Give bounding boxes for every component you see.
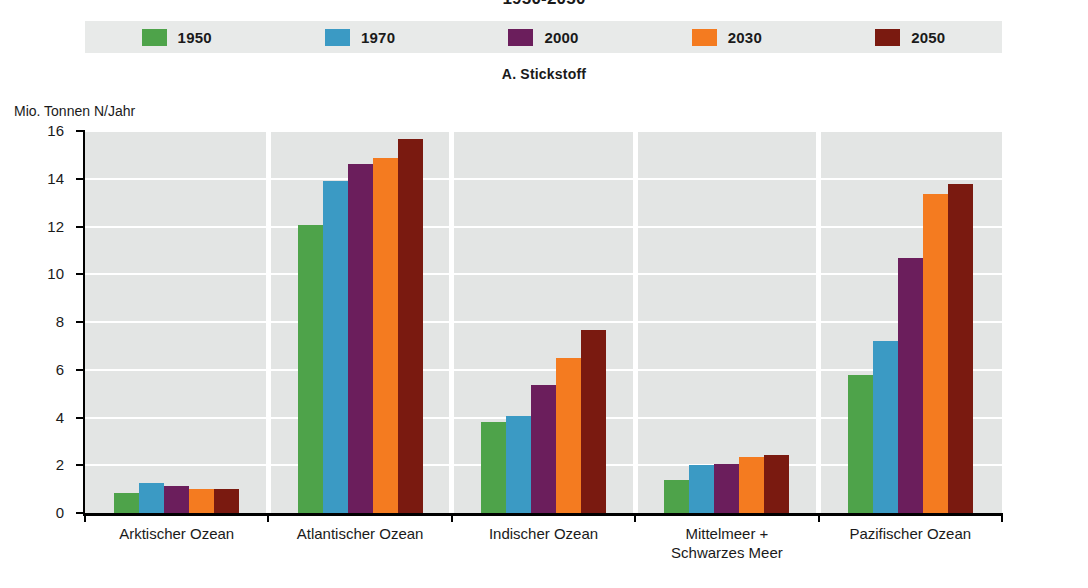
bar[interactable]	[873, 341, 898, 513]
y-axis-tick-label: 0	[24, 505, 64, 520]
y-axis-tick-label: 14	[24, 171, 64, 186]
bar[interactable]	[189, 489, 214, 513]
y-axis-tick	[76, 321, 85, 323]
legend-swatch-2030	[692, 29, 717, 46]
bar[interactable]	[581, 330, 606, 513]
bar[interactable]	[164, 486, 189, 513]
y-axis-tick	[76, 464, 85, 466]
y-axis-tick	[76, 130, 85, 132]
bar[interactable]	[348, 164, 373, 513]
legend-swatch-2050	[875, 29, 900, 46]
bar-group	[819, 131, 1002, 513]
x-axis-tick	[818, 513, 820, 522]
legend-swatch-1950	[142, 29, 167, 46]
legend-label: 1970	[361, 29, 395, 46]
x-axis-tick	[267, 513, 269, 522]
bar[interactable]	[114, 493, 139, 513]
x-axis-category-label: Atlantischer Ozean	[268, 524, 451, 543]
x-axis-tick	[84, 513, 86, 522]
y-axis-tick-label: 16	[24, 123, 64, 138]
bar[interactable]	[714, 464, 739, 513]
x-axis-category-label: Indischer Ozean	[452, 524, 635, 543]
bar[interactable]	[948, 184, 973, 513]
bar-group	[635, 131, 818, 513]
page-title: 1950-2050	[0, 0, 1088, 9]
legend-label: 1950	[178, 29, 212, 46]
y-axis-tick-label: 10	[24, 266, 64, 281]
legend-label: 2000	[544, 29, 578, 46]
legend-label: 2030	[728, 29, 762, 46]
bar[interactable]	[481, 422, 506, 513]
legend-item[interactable]: 2050	[875, 29, 945, 46]
bar[interactable]	[923, 194, 948, 513]
legend-swatch-2000	[508, 29, 533, 46]
bar-group	[268, 131, 451, 513]
bar-group	[452, 131, 635, 513]
x-axis-category-label: Arktischer Ozean	[85, 524, 268, 543]
bar[interactable]	[556, 358, 581, 513]
bar[interactable]	[506, 416, 531, 513]
y-axis-tick	[76, 369, 85, 371]
legend-label: 2050	[911, 29, 945, 46]
x-axis-category-label: Mittelmeer + Schwarzes Meer	[635, 524, 818, 562]
bar[interactable]	[664, 480, 689, 513]
legend-item[interactable]: 2000	[508, 29, 578, 46]
bar[interactable]	[214, 489, 239, 513]
bar-group	[85, 131, 268, 513]
y-axis-tick-label: 8	[24, 314, 64, 329]
bar[interactable]	[531, 385, 556, 513]
bar[interactable]	[848, 375, 873, 513]
y-axis-tick-label: 6	[24, 362, 64, 377]
y-axis-tick	[76, 417, 85, 419]
bar[interactable]	[739, 457, 764, 513]
chart-legend: 1950 1970 2000 2030 2050	[85, 21, 1002, 53]
bar[interactable]	[689, 465, 714, 513]
legend-item[interactable]: 1950	[142, 29, 212, 46]
bar[interactable]	[139, 483, 164, 513]
bar[interactable]	[323, 181, 348, 513]
x-axis-tick	[451, 513, 453, 522]
x-axis-tick	[634, 513, 636, 522]
x-axis-tick	[1001, 513, 1003, 522]
legend-item[interactable]: 2030	[692, 29, 762, 46]
y-axis-tick-label: 4	[24, 410, 64, 425]
bar[interactable]	[373, 158, 398, 513]
y-axis-tick	[76, 178, 85, 180]
x-axis-category-label: Pazifischer Ozean	[819, 524, 1002, 543]
y-axis-tick-label: 12	[24, 219, 64, 234]
chart-subtitle: A. Stickstoff	[0, 66, 1088, 82]
legend-item[interactable]: 1970	[325, 29, 395, 46]
bar[interactable]	[398, 139, 423, 513]
x-axis-line	[83, 513, 1002, 516]
y-axis-unit-label: Mio. Tonnen N/Jahr	[14, 103, 135, 119]
y-axis-line	[83, 131, 85, 515]
legend-swatch-1970	[325, 29, 350, 46]
y-axis-tick	[76, 226, 85, 228]
y-axis-tick-label: 2	[24, 457, 64, 472]
bar[interactable]	[764, 455, 789, 513]
plot-area-wrapper	[85, 131, 1002, 513]
y-axis-tick	[76, 273, 85, 275]
bar[interactable]	[898, 258, 923, 513]
bar[interactable]	[298, 225, 323, 513]
